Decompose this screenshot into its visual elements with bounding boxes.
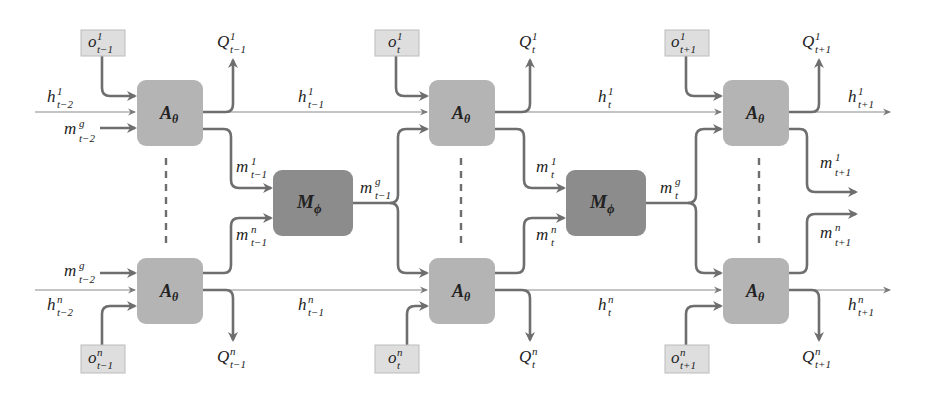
svg-text:1: 1 [680,30,686,42]
svg-text:m: m [536,225,548,244]
svg-text:1: 1 [551,155,557,167]
svg-text:o: o [671,32,680,51]
q-label-top-t-1: Q 1 t−1 [217,30,246,55]
svg-text:t: t [532,43,536,55]
svg-text:h: h [848,295,857,314]
svg-text:n: n [815,345,821,357]
svg-text:t−1: t−1 [97,359,113,371]
svg-text:t−1: t−1 [230,358,246,370]
svg-text:n: n [680,346,686,358]
svg-text:m: m [64,261,76,280]
m-label-bottom-t+1: m n t+1 [820,221,851,248]
svg-text:h: h [298,87,307,106]
m-label-top-t: m 1 t [536,155,557,180]
svg-text:t−1: t−1 [251,236,267,248]
mg-label-mixer-2: m g t [660,175,681,201]
mg-label-in-top: m g t−2 [64,117,95,144]
h-label-in-bottom: h n t−2 [47,293,73,318]
m-label-bottom-t-1: m n t−1 [236,223,267,248]
svg-text:m: m [360,178,372,197]
svg-text:t: t [551,168,555,180]
svg-text:1: 1 [608,85,614,97]
h-label-in-top: h 1 t−2 [47,85,73,110]
q-label-bottom-t: Q n t [519,345,538,370]
svg-text:t−2: t−2 [79,273,95,285]
svg-text:n: n [397,346,403,358]
svg-text:n: n [230,345,236,357]
h-label-out-bottom-t: h n t [598,293,614,318]
svg-text:g: g [675,175,681,187]
svg-text:t+1: t+1 [680,359,696,371]
svg-text:n: n [308,293,314,305]
svg-text:n: n [835,221,841,233]
m-label-top-t-1: m 1 t−1 [236,155,267,180]
marl-communication-diagram: Aθ Aθ Aθ Aθ Aθ Aθ Mϕ Mϕ o 1 t−1 o 1 t o … [0,0,925,400]
svg-text:n: n [551,223,557,235]
svg-text:n: n [608,293,614,305]
svg-text:1: 1 [57,85,63,97]
svg-text:o: o [88,32,97,51]
svg-text:1: 1 [97,30,103,42]
svg-text:t−1: t−1 [251,168,267,180]
svg-text:t: t [551,236,555,248]
svg-text:t: t [532,358,536,370]
m-label-bottom-t: m n t [536,223,557,248]
svg-text:1: 1 [308,85,314,97]
svg-text:t−2: t−2 [57,98,73,110]
h-label-out-bottom-t+1: h n t+1 [848,293,874,318]
svg-text:n: n [97,346,103,358]
q-label-top-t+1: Q 1 t+1 [802,30,831,55]
svg-text:n: n [57,293,63,305]
svg-text:1: 1 [858,85,864,97]
svg-text:m: m [660,178,672,197]
svg-text:o: o [388,348,397,367]
h-label-out-top-t: h 1 t [598,85,614,110]
svg-text:m: m [820,153,832,172]
svg-text:Q: Q [217,347,229,366]
svg-text:t+1: t+1 [680,43,696,55]
svg-text:Q: Q [519,32,531,51]
svg-text:h: h [298,295,307,314]
svg-text:t−1: t−1 [375,189,391,201]
svg-text:t−2: t−2 [57,306,73,318]
svg-text:h: h [47,295,56,314]
svg-text:n: n [858,293,864,305]
svg-text:t+1: t+1 [858,98,874,110]
svg-text:Q: Q [802,347,814,366]
svg-text:o: o [671,348,680,367]
svg-text:1: 1 [230,30,236,42]
svg-text:h: h [47,87,56,106]
svg-text:t+1: t+1 [815,358,831,370]
svg-text:g: g [79,117,85,129]
svg-text:1: 1 [532,30,538,42]
svg-text:n: n [251,223,257,235]
svg-text:t−1: t−1 [308,98,324,110]
svg-text:Q: Q [802,32,814,51]
svg-text:Q: Q [519,347,531,366]
svg-text:t+1: t+1 [815,43,831,55]
svg-text:1: 1 [835,151,841,163]
h-label-out-bottom-t-1: h n t−1 [298,293,324,318]
mg-label-mixer-1: m g t−1 [360,175,391,201]
svg-text:t+1: t+1 [835,166,851,178]
svg-text:m: m [820,223,832,242]
svg-text:Q: Q [217,32,229,51]
svg-text:t: t [608,306,612,318]
svg-text:n: n [532,345,538,357]
svg-text:o: o [388,32,397,51]
svg-text:m: m [236,225,248,244]
svg-text:t+1: t+1 [835,236,851,248]
mg-label-in-bottom: m g t−2 [64,259,95,285]
svg-text:g: g [375,175,381,187]
svg-text:h: h [598,87,607,106]
svg-text:t−2: t−2 [79,132,95,144]
svg-text:m: m [536,157,548,176]
svg-text:m: m [236,157,248,176]
svg-text:t+1: t+1 [858,306,874,318]
q-label-bottom-t+1: Q n t+1 [802,345,831,370]
svg-text:h: h [848,87,857,106]
svg-text:1: 1 [397,30,403,42]
svg-text:t: t [675,189,679,201]
svg-text:o: o [88,348,97,367]
svg-text:h: h [598,295,607,314]
